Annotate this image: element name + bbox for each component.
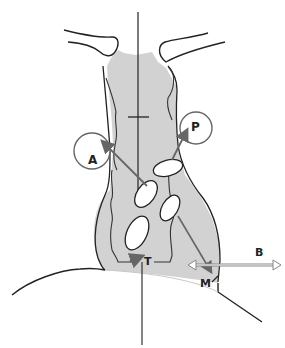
label-b: B <box>255 246 263 259</box>
right-shoulder-line <box>218 283 262 322</box>
left-clavicle <box>64 30 118 56</box>
right-clavicle <box>160 33 226 62</box>
label-a: A <box>88 153 97 167</box>
label-t: T <box>144 255 152 268</box>
left-shoulder-line <box>12 269 105 295</box>
diagram-canvas: A P T M B <box>0 0 285 348</box>
label-p: P <box>191 120 200 134</box>
label-m: M <box>200 277 211 290</box>
anatomical-diagram <box>0 0 285 348</box>
